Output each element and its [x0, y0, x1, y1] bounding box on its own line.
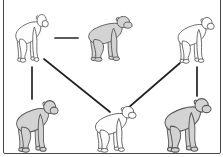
chimp-bottom-right [165, 99, 211, 152]
nodes-group [16, 15, 214, 153]
diagram-canvas [0, 0, 223, 157]
chimp-top-right [178, 17, 214, 63]
chimp-bottom-left [17, 101, 59, 153]
chimp-bottom-center [95, 106, 136, 152]
edge-topright-bottomcenter [128, 63, 180, 108]
chimp-top-center [89, 16, 132, 61]
chimp-network-figure [0, 0, 223, 157]
chimp-top-left [16, 15, 49, 63]
